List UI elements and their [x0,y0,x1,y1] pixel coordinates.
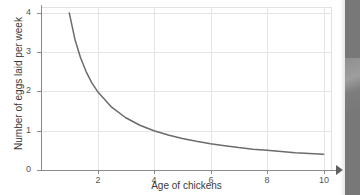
x-tick-mark [324,170,325,174]
curve-series-eggs-laid-per-week [41,7,332,170]
chart-screenshot: 01234 246810 Age of chickens Number of e… [0,0,360,195]
x-tick-mark [267,170,268,174]
x-tick-mark [154,170,155,174]
y-tick-mark [37,131,42,132]
page-edge-highlight [345,58,360,112]
y-tick-label-wrap: 0 [17,164,31,176]
y-axis-title: Number of eggs laid per week [13,4,24,164]
y-tick-mark [37,52,42,53]
y-tick-label: 0 [17,164,31,174]
plot-area [41,7,332,170]
y-tick-mark [37,13,42,14]
x-tick-mark [211,170,212,174]
x-axis-line [41,170,340,171]
y-tick-mark [37,91,42,92]
x-axis-title: Age of chickens [41,180,332,191]
y-axis-line [41,5,42,171]
y-tick-mark [37,170,42,171]
x-tick-mark [98,170,99,174]
